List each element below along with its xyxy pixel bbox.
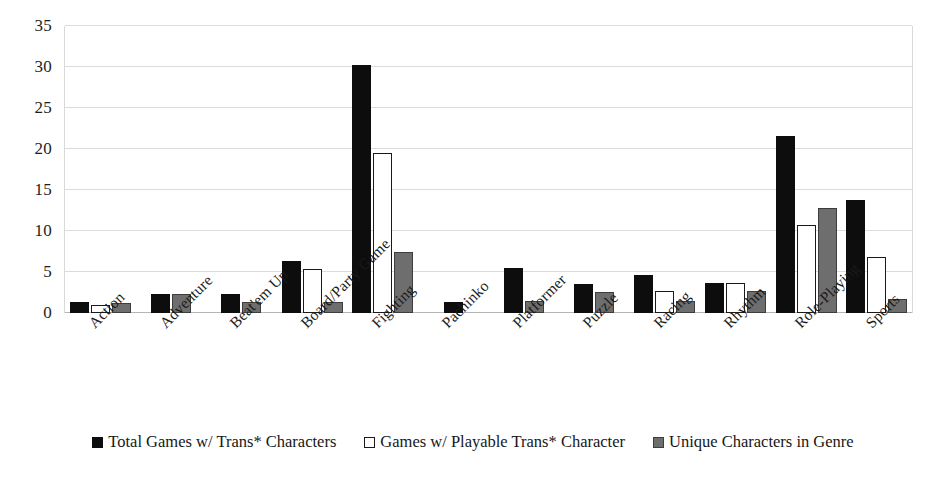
bar-group: [277, 26, 348, 313]
y-axis-tick-label: 0: [43, 304, 52, 321]
bar-group: [489, 26, 560, 313]
bar-group: [65, 26, 136, 313]
bar: [776, 136, 795, 313]
legend-item[interactable]: Unique Characters in Genre: [653, 432, 854, 452]
bar: [70, 302, 89, 313]
bar-group: [559, 26, 630, 313]
legend-item[interactable]: Games w/ Playable Trans* Character: [364, 432, 625, 452]
y-axis-tick-label: 20: [35, 140, 52, 157]
filled-black-square-icon: [92, 437, 103, 448]
bar-group: [418, 26, 489, 313]
filled-gray-square-icon: [653, 437, 664, 448]
legend-item-label: Unique Characters in Genre: [669, 432, 854, 452]
chart-legend: Total Games w/ Trans* CharactersGames w/…: [0, 432, 946, 452]
legend-item-label: Games w/ Playable Trans* Character: [380, 432, 625, 452]
y-axis-tick-label: 30: [35, 58, 52, 75]
bar: [634, 275, 653, 313]
legend-item-label: Total Games w/ Trans* Characters: [108, 432, 336, 452]
bar: [846, 200, 865, 313]
bar-chart: 05101520253035 ActionAdventureBeat'em Up…: [0, 0, 946, 496]
y-axis-tick-label: 15: [35, 181, 52, 198]
bar-group: [630, 26, 701, 313]
legend-item[interactable]: Total Games w/ Trans* Characters: [92, 432, 336, 452]
y-axis-tick-label: 25: [35, 99, 52, 116]
y-axis: 05101520253035: [0, 26, 56, 313]
bar: [282, 261, 301, 313]
y-axis-tick-label: 10: [35, 222, 52, 239]
plot-area: [64, 26, 913, 313]
y-axis-tick-label: 5: [43, 263, 52, 280]
bar: [705, 283, 724, 313]
bar-group: [771, 26, 842, 313]
y-axis-tick-label: 35: [35, 17, 52, 34]
bar: [373, 153, 392, 313]
bar-group: [700, 26, 771, 313]
x-axis-labels: ActionAdventureBeat'em UpBoard/Party Gam…: [64, 313, 913, 423]
bar-group: [206, 26, 277, 313]
bar-group: [136, 26, 207, 313]
outlined-white-square-icon: [364, 437, 375, 448]
